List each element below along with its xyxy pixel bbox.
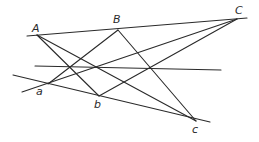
line-axis-horizontal: [35, 66, 221, 70]
point-label-a: a: [36, 85, 43, 98]
point-label-C: C: [235, 4, 243, 17]
point-label-b: b: [94, 98, 101, 111]
line-B-c: [118, 30, 196, 121]
geometry-diagram: ABCabc: [0, 0, 259, 142]
diagram-lines: [13, 18, 247, 122]
point-label-B: B: [113, 13, 121, 26]
point-label-c: c: [192, 123, 198, 136]
line-C-b: [99, 19, 237, 96]
line-A-c: [37, 35, 196, 121]
line-B-a: [48, 30, 118, 84]
line-A-b: [37, 35, 99, 96]
line-abc: [13, 75, 210, 122]
line-C-a: [22, 19, 237, 92]
point-label-A: A: [31, 22, 40, 35]
